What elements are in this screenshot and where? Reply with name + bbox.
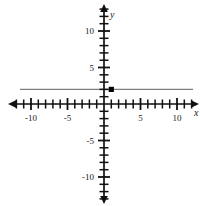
x-tick-label: -5	[64, 113, 72, 123]
y-axis-label: y	[109, 9, 115, 20]
coordinate-plane-svg: -10-5510 105-5-10 y x	[0, 0, 200, 206]
x-axis-label: x	[193, 107, 199, 118]
y-axis-up-arrow-icon	[100, 4, 108, 12]
x-axis-left-arrow-icon	[8, 100, 16, 108]
data-points-group	[109, 87, 114, 92]
plotted-point	[109, 87, 114, 92]
y-tick-label: -10	[82, 172, 94, 182]
x-tick-label: 5	[138, 113, 143, 123]
y-tick-label: -5	[87, 136, 95, 146]
y-axis-down-arrow-icon	[100, 196, 108, 204]
coordinate-plane-figure: -10-5510 105-5-10 y x	[0, 0, 200, 206]
y-tick-label: 5	[90, 63, 95, 73]
x-tick-label: -10	[25, 113, 37, 123]
y-tick-label: 10	[85, 26, 95, 36]
x-tick-label: 10	[173, 113, 183, 123]
